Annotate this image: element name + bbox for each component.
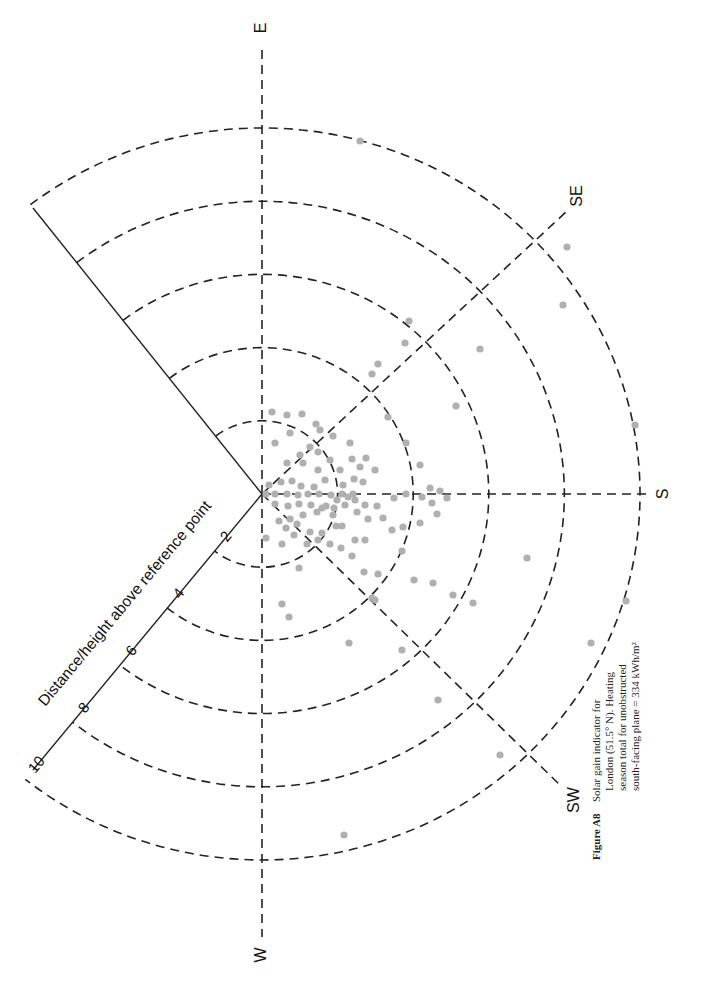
data-point [268, 408, 275, 415]
direction-label-sw: SW [565, 786, 582, 813]
data-point [307, 501, 314, 508]
data-point [326, 540, 333, 547]
data-point [333, 496, 340, 503]
data-point [283, 411, 290, 418]
data-point [262, 490, 269, 497]
data-point [295, 500, 302, 507]
data-point [416, 519, 423, 526]
data-point [262, 534, 269, 541]
data-point [327, 491, 334, 498]
data-point [306, 528, 313, 535]
data-point [559, 301, 566, 308]
data-point [312, 420, 319, 427]
direction-label-w: W [252, 947, 269, 963]
data-point [330, 504, 337, 511]
data-point [429, 579, 436, 586]
data-point [299, 511, 306, 518]
chart-labels: ESESSWW246810Distance/height above refer… [24, 23, 671, 963]
data-point [349, 490, 356, 497]
data-point [434, 696, 441, 703]
data-point [346, 439, 353, 446]
data-point [295, 564, 302, 571]
data-point [326, 456, 333, 463]
data-point [398, 547, 405, 554]
data-point [449, 591, 456, 598]
data-point [315, 490, 322, 497]
data-point [288, 477, 295, 484]
caption-line: season total for unobstructed [616, 664, 628, 791]
data-point [364, 515, 371, 522]
data-point [622, 597, 629, 604]
data-point [348, 552, 355, 559]
data-point [401, 339, 408, 346]
data-point [362, 454, 369, 461]
data-point [306, 443, 313, 450]
data-point [379, 514, 386, 521]
data-point [265, 481, 272, 488]
data-point [284, 502, 291, 509]
caption-line: Solar gain indicator for [590, 699, 602, 802]
data-point [361, 536, 368, 543]
data-point [283, 459, 290, 466]
data-point [296, 451, 303, 458]
data-point [452, 402, 459, 409]
data-point [402, 490, 409, 497]
data-point [283, 490, 290, 497]
data-point [297, 482, 304, 489]
data-point [433, 510, 440, 517]
data-point [418, 493, 425, 500]
data-point [353, 508, 360, 515]
direction-label-e: E [252, 23, 269, 34]
data-point [282, 524, 289, 531]
figure-caption: Figure A8Solar gain indicator forLondon … [590, 641, 641, 860]
data-point [374, 360, 381, 367]
data-point [271, 490, 278, 497]
data-point [368, 594, 375, 601]
data-point [322, 502, 329, 509]
data-point [443, 494, 450, 501]
data-point [398, 646, 405, 653]
data-point [329, 432, 336, 439]
data-point [318, 529, 325, 536]
caption-line: south-facing plane = 334 kWh/m² [629, 641, 641, 791]
data-point [340, 831, 347, 838]
data-point [428, 499, 435, 506]
data-point [286, 515, 293, 522]
data-point [476, 345, 483, 352]
data-point [332, 522, 339, 529]
data-point [278, 540, 285, 547]
data-point [374, 570, 381, 577]
data-point [426, 484, 433, 491]
data-point [368, 370, 375, 377]
data-point [563, 243, 570, 250]
data-point [436, 487, 443, 494]
data-point [277, 478, 284, 485]
data-point [361, 501, 368, 508]
data-point [337, 544, 344, 551]
data-point [336, 466, 343, 473]
data-point [321, 476, 328, 483]
data-point [410, 576, 417, 583]
data-point [314, 448, 321, 455]
spoke-se [262, 212, 566, 494]
data-point [341, 501, 348, 508]
solar-gain-polar-chart: ESESSWW246810Distance/height above refer… [0, 0, 703, 984]
data-point [345, 639, 352, 646]
radial-axis-title: Distance/height above reference point [34, 497, 214, 709]
data-point [316, 426, 323, 433]
data-point [405, 317, 412, 324]
data-point [371, 466, 378, 473]
data-point [299, 459, 306, 466]
data-point [278, 600, 285, 607]
data-point [523, 554, 530, 561]
data-point [271, 439, 278, 446]
data-point [339, 481, 346, 488]
data-point [290, 531, 297, 538]
data-point [416, 461, 423, 468]
data-point [390, 494, 397, 501]
chart-grid [25, 44, 648, 937]
data-point [285, 613, 292, 620]
data-point [359, 478, 366, 485]
data-point [469, 599, 476, 606]
data-point [496, 751, 503, 758]
